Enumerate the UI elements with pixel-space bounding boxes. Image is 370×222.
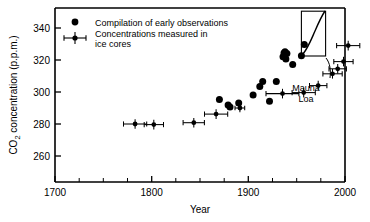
mauna-loa-label-line2: Loa — [298, 94, 313, 104]
data-point-observation — [227, 103, 234, 110]
x-tick-label-2000: 2000 — [334, 187, 357, 198]
x-tick-label-1900: 1900 — [237, 187, 260, 198]
data-point-icecore — [334, 57, 353, 67]
x-axis-ticks — [55, 176, 345, 182]
series-ice-cores — [124, 41, 360, 130]
legend-marker-filled-circle — [72, 19, 79, 26]
legend-label-ice-cores-line1: Concentrations measured in — [95, 29, 208, 39]
legend-label-ice-cores-line2: ice cores — [95, 39, 132, 49]
legend-marker-errorbar-point — [64, 32, 86, 44]
y-tick-label-320: 320 — [33, 55, 50, 66]
x-tick-label-1700: 1700 — [44, 187, 67, 198]
data-point-icecore — [124, 119, 147, 129]
mauna-loa-curve — [303, 11, 325, 54]
data-point-observation — [250, 91, 257, 98]
series-early-observations — [216, 41, 308, 110]
y-axis-title-pre: CO — [8, 139, 19, 154]
data-point-observation — [283, 50, 290, 57]
chart-canvas: 340 320 300 280 260 1700 1800 1900 — [0, 0, 370, 222]
y-axis-ticks — [55, 28, 61, 156]
y-tick-label-280: 280 — [33, 119, 50, 130]
y-axis-title: CO2 concentration (p.p.m.) — [8, 35, 22, 154]
data-point-observation — [289, 61, 296, 68]
data-point-observation — [216, 96, 223, 103]
mauna-loa-label-line1: Mauna — [292, 83, 320, 93]
y-tick-label-260: 260 — [33, 151, 50, 162]
data-point-icecore — [144, 120, 163, 130]
data-point-observation — [273, 78, 280, 85]
legend: Compilation of early observations Concen… — [64, 18, 229, 50]
annotation-mauna-loa: Mauna Loa — [292, 11, 330, 104]
y-tick-label-340: 340 — [33, 23, 50, 34]
data-point-observation — [235, 100, 242, 107]
x-tick-label-1800: 1800 — [141, 187, 164, 198]
legend-label-early-observations: Compilation of early observations — [95, 18, 229, 28]
mauna-loa-leader-line — [326, 58, 330, 78]
svg-text:CO2 concentration (p.p.m.): CO2 concentration (p.p.m.) — [8, 35, 22, 154]
data-point-observation — [266, 98, 273, 105]
y-axis-tick-labels: 340 320 300 280 260 — [33, 23, 50, 162]
figure-co2-concentration-vs-year: 340 320 300 280 260 1700 1800 1900 — [0, 0, 370, 222]
x-axis-title: Year — [190, 204, 211, 215]
y-tick-label-300: 300 — [33, 87, 50, 98]
data-point-icecore — [183, 118, 204, 128]
data-point-icecore — [337, 41, 360, 51]
y-axis-title-post: concentration (p.p.m.) — [8, 35, 19, 135]
data-point-observation — [259, 78, 266, 85]
x-axis-tick-labels: 1700 1800 1900 2000 — [44, 187, 357, 198]
data-point-icecore — [205, 109, 228, 119]
